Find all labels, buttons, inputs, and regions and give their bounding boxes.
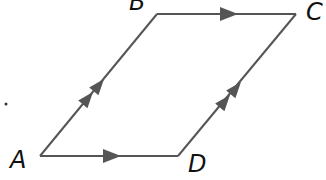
- stray-dot: [5, 103, 8, 106]
- vertex-label-d: D: [188, 150, 206, 178]
- arrow-icon-bc: [220, 7, 238, 21]
- parallelogram-diagram: A B C D: [0, 0, 326, 180]
- arrow-icon-ad: [103, 149, 121, 163]
- vertex-label-c: C: [306, 0, 323, 26]
- vertex-label-b: B: [129, 0, 145, 16]
- vertex-label-a: A: [8, 146, 26, 174]
